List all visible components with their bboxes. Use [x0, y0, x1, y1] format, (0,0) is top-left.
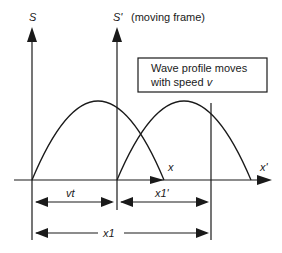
x-prime-axis-label: x'	[259, 161, 269, 173]
s-frame-label: S	[29, 11, 37, 23]
moving-frame-note: (moving frame)	[131, 11, 205, 23]
s-prime-frame-label: S'	[113, 11, 123, 23]
x-prime-axis-arrow-icon	[257, 175, 272, 185]
s-axis-arrow-icon	[27, 27, 37, 42]
s-prime-axis-arrow-icon	[112, 27, 122, 42]
vt-label: vt	[66, 187, 76, 199]
vt-left-arrow-icon	[35, 197, 48, 207]
wave-frame-diagram: S S' (moving frame) x x' Wave profile mo…	[0, 0, 282, 253]
x1-prime-left-arrow-icon	[120, 197, 133, 207]
wave-profile-s	[32, 101, 164, 180]
x1-left-arrow-icon	[35, 228, 48, 238]
x1-prime-right-arrow-icon	[196, 197, 209, 207]
s-axis	[27, 27, 37, 240]
callout-line-2-prefix: with speed	[150, 76, 207, 88]
s-prime-axis	[112, 27, 122, 210]
vt-right-arrow-icon	[101, 197, 114, 207]
x1-prime-label: x1'	[154, 187, 170, 199]
callout-line-1: Wave profile moves	[151, 62, 248, 74]
x-axis-label: x	[167, 161, 174, 173]
x1-right-arrow-icon	[196, 228, 209, 238]
wave-profile-s-prime	[117, 101, 251, 180]
x-axis-arrow-icon	[150, 176, 164, 184]
x1-label: x1	[102, 227, 115, 239]
callout-line-2: with speed v	[150, 76, 214, 88]
